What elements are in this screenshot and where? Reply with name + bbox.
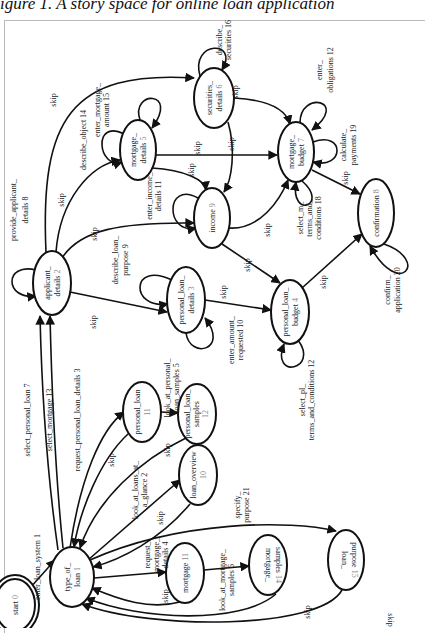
- label-select-m-3: conditions 18: [314, 196, 323, 239]
- node-personal-loan: personal_loan 11: [123, 382, 161, 442]
- label-specify-purpose-2: purpose 21: [242, 487, 251, 522]
- label-describe-object: describe_object 14: [79, 110, 88, 170]
- svg-text:details 6: details 6: [215, 85, 224, 112]
- node-mortgage-budget: mortgage_ budget 7: [278, 122, 314, 182]
- label-enter-amount-2: requested 10: [236, 320, 245, 361]
- label-skip: skip: [161, 589, 170, 602]
- svg-text:personal_loan: personal_loan: [133, 390, 142, 435]
- label-skip: skip: [90, 227, 99, 240]
- label-enter-mortgage-2: amount 15: [102, 93, 111, 127]
- label-select-personal-loan: select_personal_loan 7: [23, 383, 32, 456]
- label-select-mortgage: select_mortgage 13: [45, 389, 54, 451]
- label-look-at-loans-2: a_glance 2: [140, 473, 149, 507]
- label-request-mortgage-1: request_: [143, 540, 152, 568]
- label-calculate-payments-2: payments 19: [349, 125, 358, 166]
- label-select-m-1: select_m_: [296, 201, 305, 234]
- label-look-at-loans-1: look_at_loans_at_: [131, 460, 140, 520]
- svg-text:type_of_: type_of_: [63, 562, 72, 591]
- label-confirm-application-1: confirm_: [383, 274, 392, 304]
- node-mortgage-samples: mortgage_ samples 14: [249, 535, 287, 595]
- svg-text:applicant_: applicant_: [43, 265, 52, 299]
- label-enter-obligations-2: obligations 12: [326, 47, 335, 93]
- node-personal-loan-budget: personal_loan_ budget 4: [271, 280, 309, 344]
- label-skip: skip: [341, 171, 350, 184]
- svg-text:samples 14: samples 14: [274, 547, 283, 583]
- svg-text:budget 4: budget 4: [291, 298, 300, 326]
- label-skip: skip: [231, 85, 240, 98]
- svg-text:budget 7: budget 7: [297, 138, 306, 166]
- label-look-at-personal-1: look_at_personal_: [163, 357, 172, 417]
- node-securities-details: securities_ details 6: [194, 68, 234, 128]
- label-enter-income-1: enter_income_: [145, 171, 154, 220]
- label-look-at-personal-2: loan_samples 5: [172, 363, 181, 413]
- label-request-mortgage-2: mortgage_: [152, 537, 161, 572]
- svg-text:11: 11: [143, 408, 152, 416]
- label-skip: skip: [263, 223, 272, 236]
- label-skip: skip: [57, 193, 66, 206]
- label-skip: skip: [49, 93, 58, 106]
- label-enter-loan-system: enter_loan_system 1: [33, 534, 42, 600]
- label-skip: skip: [303, 605, 312, 618]
- svg-text:samples: samples: [192, 401, 201, 427]
- node-loan-purpose: loan_ purpose 15: [328, 530, 364, 590]
- svg-text:confirmation 8: confirmation 8: [372, 189, 381, 236]
- svg-text:details 2: details 2: [53, 270, 62, 297]
- label-confirm-application-2: application 20: [393, 267, 402, 313]
- label-enter-amount-1: enter_amount_: [227, 315, 236, 364]
- label-skip: skip: [227, 137, 236, 150]
- node-type-of-loan: type_of_ loan 1: [50, 547, 94, 607]
- node-income: income 9: [194, 188, 230, 248]
- svg-text:mortgage_: mortgage_: [287, 134, 296, 169]
- label-describe-loan-1: describe_loan_: [111, 235, 120, 284]
- svg-text:loan 1: loan 1: [73, 567, 82, 587]
- label-skip: skip: [187, 163, 196, 176]
- node-personal-loan-samples: personal_loan_ samples 12: [178, 384, 216, 444]
- node-personal-loan-details: personal_loan_ details 3: [167, 267, 205, 333]
- node-mortgage-details: mortgage_ details 5: [120, 120, 156, 180]
- label-skip: skip: [319, 275, 328, 288]
- svg-text:mortgage 11: mortgage 11: [181, 553, 190, 593]
- label-skip: skip: [219, 285, 228, 298]
- svg-text:start 0: start 0: [11, 595, 20, 615]
- label-provide-applicant-1: provide_applicant_: [9, 178, 18, 241]
- svg-text:personal_loan_: personal_loan_: [183, 389, 192, 439]
- svg-text:personal_loan_: personal_loan_: [281, 287, 290, 337]
- svg-text:mortgage_: mortgage_: [264, 548, 273, 583]
- svg-text:mortgage_: mortgage_: [129, 132, 138, 167]
- svg-text:details 5: details 5: [139, 137, 148, 164]
- svg-text:loan_: loan_: [340, 551, 349, 570]
- label-skip: skip: [386, 613, 395, 626]
- label-select-pl-1: select_pl_: [298, 383, 307, 416]
- svg-text:securities_: securities_: [205, 80, 214, 115]
- node-loan-overview: loan_overview 10: [179, 445, 217, 505]
- svg-text:personal_loan_: personal_loan_: [177, 275, 186, 325]
- label-enter-mortgage-1: enter_mortgage_: [93, 82, 102, 137]
- label-describe-loan-2: purpose 9: [121, 244, 130, 275]
- label-skip: skip: [243, 258, 252, 271]
- label-describe-securities-2: securities 16: [224, 20, 233, 60]
- svg-text:12: 12: [201, 410, 210, 418]
- label-look-at-mortgage-2: samples 6: [227, 564, 236, 596]
- svg-text:details 3: details 3: [187, 287, 196, 314]
- label-skip: skip: [156, 511, 165, 524]
- svg-text:purpose 15: purpose 15: [350, 542, 359, 577]
- label-specify-purpose-1: specify_: [233, 490, 242, 518]
- label-request-personal-loan-details: request_personal_loan_details 3: [73, 369, 82, 472]
- label-look-at-mortgage-1: look_at_mortgage_: [218, 548, 227, 611]
- label-skip: skip: [193, 141, 202, 154]
- node-mortgage: mortgage 11: [166, 543, 204, 603]
- label-enter-income-2: details 11: [154, 181, 163, 212]
- label-calculate-payments-1: calculate_: [339, 128, 348, 161]
- label-skip: skip: [89, 315, 98, 328]
- svg-text:10: 10: [199, 471, 208, 479]
- label-select-m-2: terms_and_: [305, 198, 314, 236]
- label-select-pl-2: terms_and_conditions 12: [307, 360, 316, 441]
- label-describe-securities-1: describe_: [215, 24, 224, 56]
- node-confirmation: confirmation 8: [358, 179, 394, 247]
- label-skip: skip: [163, 443, 172, 456]
- label-request-mortgage-3: details 4: [161, 542, 170, 569]
- label-enter-obligations-1: enter_: [315, 59, 324, 80]
- node-applicant-details: applicant_ details 2: [33, 251, 71, 315]
- label-provide-applicant-2: details 8: [21, 197, 30, 224]
